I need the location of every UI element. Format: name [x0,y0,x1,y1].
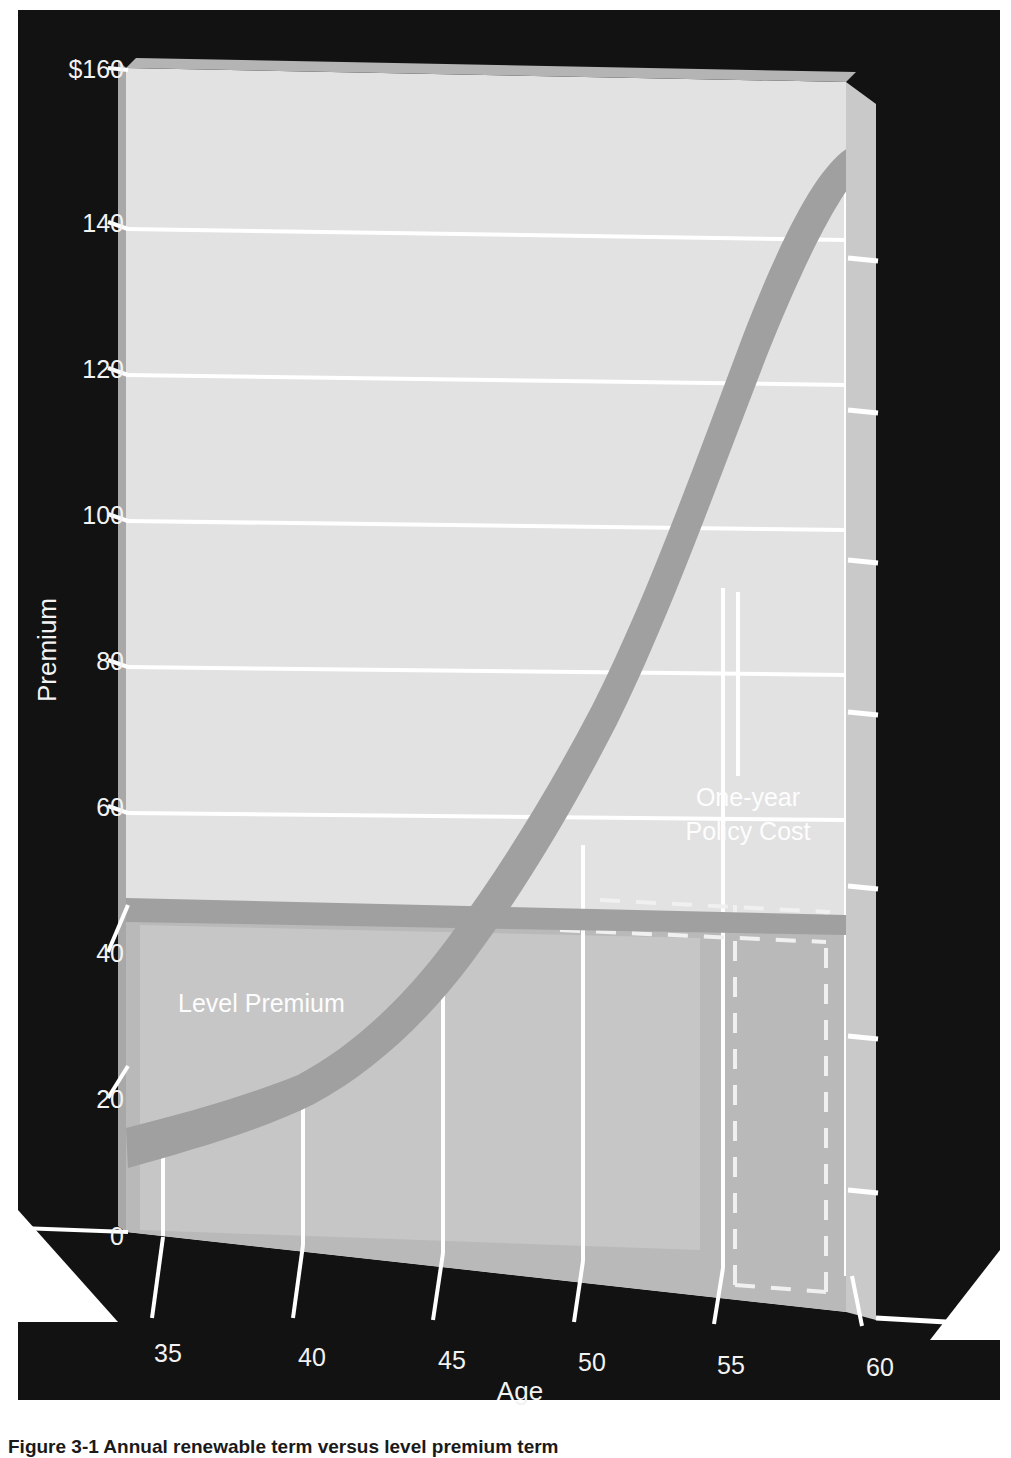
xtick-label-35: 35 [154,1339,182,1367]
xtick-label-55: 55 [717,1351,745,1379]
xtick-label-50: 50 [578,1348,606,1376]
ytick-label-0: 0 [110,1222,124,1250]
right-tick-5 [848,886,878,889]
frame-bevel-top-left [0,10,18,40]
right-tick-6 [848,1036,878,1039]
xtick-label-45: 45 [438,1346,466,1374]
ytick-label-80: 80 [96,647,124,675]
level-premium-label: Level Premium [178,989,345,1017]
right-tick-4 [848,712,878,715]
y-axis-title: Premium [32,598,62,702]
right-tick-2 [848,410,878,413]
right-side-panel [846,82,876,1320]
ytick-label-160: $160 [68,55,124,83]
one-year-cost-label-line1: One-year [696,783,800,811]
xtick-label-60: 60 [866,1353,894,1381]
right-tick-3 [848,560,878,563]
xtick-label-40: 40 [298,1343,326,1371]
ytick-label-120: 120 [82,355,124,383]
right-tick-1 [848,258,878,261]
x-axis-title: Age [497,1376,543,1406]
ytick-label-20: 20 [96,1085,124,1113]
ytick-label-140: 140 [82,209,124,237]
ytick-label-40: 40 [96,939,124,967]
ytick-label-100: 100 [82,501,124,529]
one-year-cost-label-line2: Policy Cost [685,817,810,845]
right-tick-7 [848,1190,878,1193]
ytick-label-60: 60 [96,793,124,821]
figure-caption: Figure 3-1 Annual renewable term versus … [8,1436,1008,1458]
